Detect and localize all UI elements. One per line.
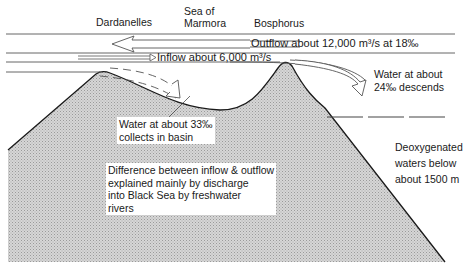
label-basin-2: collects in basin [119, 131, 213, 144]
label-sea-of-marmora-1: Sea of [184, 5, 214, 18]
label-deoxygenated-2: waters below [395, 155, 463, 171]
inflow-arrow-icon [78, 54, 156, 61]
label-descends-1: Water at about [374, 68, 442, 81]
label-descends-2: 24‰ descends [374, 81, 444, 94]
label-outflow: Outflow about 12,000 m³/s at 18‰ [251, 37, 419, 50]
label-difference-2: explained mainly by discharge [108, 177, 274, 190]
label-basin-1: Water at about 33‰ [119, 118, 213, 131]
label-difference-3: into Black Sea by freshwater [108, 189, 274, 202]
label-inflow: Inflow about 6,000 m³/s [157, 51, 271, 64]
label-deoxygenated-1: Deoxygenated [395, 139, 463, 155]
label-sea-of-marmora-2: Marmora [184, 17, 226, 30]
label-deoxygenated: Deoxygenated waters below about 1500 m [395, 139, 463, 187]
basin-arrow-head-icon [166, 80, 180, 98]
label-dardanelles: Dardanelles [96, 16, 152, 29]
label-bosphorus: Bosphorus [254, 17, 304, 30]
label-difference-1: Difference between inflow & outflow [108, 164, 274, 177]
label-deoxygenated-3: about 1500 m [395, 171, 463, 187]
label-basin: Water at about 33‰ collects in basin [117, 117, 215, 144]
label-difference: Difference between inflow & outflow expl… [106, 163, 276, 215]
label-difference-4: rivers [108, 202, 274, 215]
